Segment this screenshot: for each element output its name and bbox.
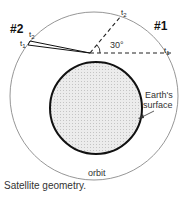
earth-circle — [50, 62, 142, 154]
line-sat2-t1 — [28, 45, 90, 53]
figure-caption: Satellite geometry. — [4, 180, 86, 191]
label-angle: 30° — [110, 40, 124, 50]
satellite-geometry-diagram: #2 #1 t2 t1 t2 t1 30° Earth's surface or… — [0, 0, 188, 201]
label-earth-line2: surface — [143, 100, 173, 110]
label-sat1: #1 — [154, 19, 168, 33]
label-t2-top: t2 — [121, 8, 127, 18]
label-orbit: orbit — [88, 168, 106, 178]
label-sat2: #2 — [10, 22, 24, 36]
label-t1-left: t1 — [20, 39, 26, 49]
angle-arc — [97, 45, 100, 53]
line-sat2-t2 — [30, 41, 90, 53]
label-t1-right: t1 — [164, 46, 170, 56]
label-t2-left: t2 — [29, 30, 35, 40]
label-earth-line1: Earth's — [145, 90, 173, 100]
